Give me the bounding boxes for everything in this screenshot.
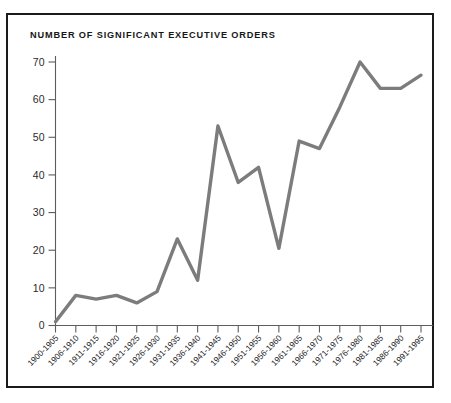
y-tick-label: 60 — [33, 93, 45, 105]
y-tick-label: 40 — [33, 169, 45, 181]
x-axis: 1900-19051906-19101911-19151916-19201921… — [25, 326, 433, 368]
data-series-executive-orders — [56, 62, 422, 322]
y-tick-label: 50 — [33, 131, 45, 143]
line-chart-plot: 010203040506070 1900-19051906-19101911-1… — [0, 0, 451, 403]
y-tick-label: 30 — [33, 206, 45, 218]
series-line — [56, 62, 422, 322]
y-tick-label: 70 — [33, 56, 45, 68]
chart-figure: NUMBER OF SIGNIFICANT EXECUTIVE ORDERS 0… — [0, 0, 451, 403]
y-tick-label: 10 — [33, 282, 45, 294]
y-tick-label: 20 — [33, 244, 45, 256]
y-axis: 010203040506070 — [33, 56, 56, 332]
y-tick-label: 0 — [39, 319, 45, 331]
